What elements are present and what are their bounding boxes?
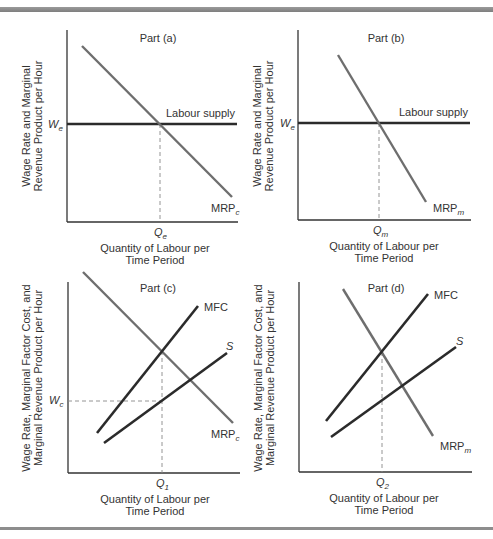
panel-b-title: Part (b) bbox=[368, 32, 405, 44]
panel-c-x-label-line1: Quantity of Labour per bbox=[100, 493, 210, 505]
panel-a-supply-label: Labour supply bbox=[166, 107, 236, 119]
panel-b-mrp-curve bbox=[338, 55, 426, 202]
panel-d-mfc-label: MFC bbox=[434, 289, 458, 301]
panel-b-x-label-line2: Time Period bbox=[355, 252, 414, 264]
svg-text:Marginal Revenue Product per H: Marginal Revenue Product per Hour bbox=[32, 290, 44, 466]
panel-a-q-label: Qe bbox=[154, 226, 168, 241]
panel-b-supply-label: Labour supply bbox=[399, 106, 469, 118]
panel-c-wage-label: Wc bbox=[49, 394, 63, 409]
panel-b: Part (b) Wage Rate and Marginal Revenue … bbox=[251, 30, 471, 264]
panel-c-mfc-curve bbox=[97, 306, 198, 433]
panel-b-y-label: Wage Rate and Marginal Revenue Product p… bbox=[251, 60, 275, 191]
panel-a-x-label-line1: Quantity of Labour per bbox=[100, 242, 210, 254]
panel-a-y-label: Wage Rate and Marginal Revenue Product p… bbox=[20, 60, 44, 191]
panel-c-y-label: Wage Rate, Marginal Factor Cost, and Mar… bbox=[20, 284, 44, 471]
panel-c-mrp-curve bbox=[83, 272, 233, 423]
panel-c-q-label: Q1 bbox=[156, 477, 169, 492]
panel-d-x-label-line2: Time Period bbox=[355, 504, 414, 516]
svg-text:Wage Rate, Marginal Factor Cos: Wage Rate, Marginal Factor Cost, and bbox=[20, 284, 32, 471]
panel-d: Part (d) Wage Rate, Marginal Factor Cost… bbox=[252, 282, 472, 516]
panel-a: Part (a) Wage Rate and Marginal Revenue … bbox=[20, 30, 239, 266]
panel-d-mrp-curve bbox=[343, 289, 433, 436]
svg-text:Marginal Revenue Product per H: Marginal Revenue Product per Hour bbox=[264, 290, 276, 466]
panel-b-x-label-line1: Quantity of Labour per bbox=[329, 240, 439, 252]
panel-a-title: Part (a) bbox=[140, 32, 177, 44]
panel-b-mrp-label: MRPm bbox=[433, 202, 464, 217]
svg-text:Revenue Product per Hour: Revenue Product per Hour bbox=[32, 60, 44, 191]
panel-c-x-label-line2: Time Period bbox=[126, 505, 185, 517]
panel-a-x-label-line2: Time Period bbox=[126, 254, 185, 266]
panel-a-mrp-curve bbox=[82, 46, 232, 197]
panel-c-mrp-label: MRPc bbox=[211, 428, 239, 443]
panel-c-s-label: S bbox=[226, 340, 234, 352]
panel-d-y-label: Wage Rate, Marginal Factor Cost, and Mar… bbox=[252, 284, 276, 471]
svg-text:Wage Rate, Marginal Factor Cos: Wage Rate, Marginal Factor Cost, and bbox=[252, 284, 264, 471]
panel-d-x-label-line1: Quantity of Labour per bbox=[329, 492, 439, 504]
svg-text:Revenue Product per Hour: Revenue Product per Hour bbox=[263, 60, 275, 191]
panel-a-mrp-label: MRPc bbox=[211, 202, 239, 217]
panel-d-s-label: S bbox=[456, 335, 464, 347]
panel-b-q-label: Qm bbox=[373, 224, 389, 239]
panel-d-title: Part (d) bbox=[368, 282, 405, 294]
panel-a-wage-label: We bbox=[48, 118, 63, 133]
panel-c-mfc-label: MFC bbox=[204, 301, 228, 313]
labour-market-diagram: Part (a) Wage Rate and Marginal Revenue … bbox=[0, 0, 493, 539]
panel-c: Part (c) Wage Rate, Marginal Factor Cost… bbox=[20, 272, 240, 517]
panel-d-q-label: Q2 bbox=[376, 476, 390, 491]
svg-text:Wage Rate and Marginal: Wage Rate and Marginal bbox=[20, 65, 32, 186]
panel-b-wage-label: We bbox=[280, 117, 295, 132]
panel-c-title: Part (c) bbox=[140, 282, 176, 294]
svg-text:Wage Rate and Marginal: Wage Rate and Marginal bbox=[251, 65, 263, 186]
panel-d-mrp-label: MRPm bbox=[440, 440, 471, 455]
